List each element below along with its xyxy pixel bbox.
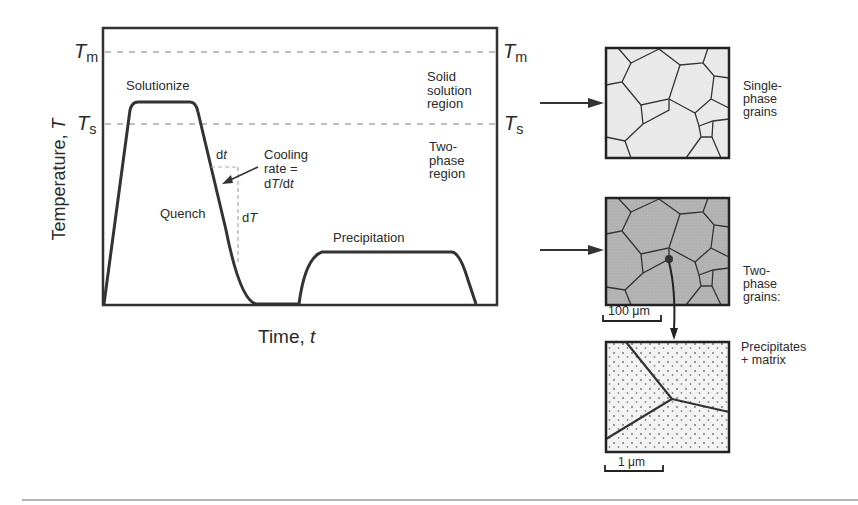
tm-label-right: Tm <box>503 41 527 62</box>
two-phase-region-label: Two- phase region <box>429 140 465 181</box>
precipitation-label: Precipitation <box>333 231 405 245</box>
tm-label-left: Tm <box>74 41 98 62</box>
x-axis-label: Time, t <box>258 327 315 347</box>
two-phase-micrograph <box>606 198 729 305</box>
scale-label-1um: 1 μm <box>618 456 645 469</box>
dT-label: dT <box>242 211 257 225</box>
arrowhead-icon <box>588 245 604 255</box>
ts-label-right: Ts <box>504 113 523 134</box>
cooling-rate-label: Coolingrate =dT/dt <box>264 148 308 191</box>
y-axis-label: Temperature, T <box>50 104 69 254</box>
arrowhead-down-icon <box>670 328 678 340</box>
dt-label: dt <box>216 148 227 162</box>
two-phase-grains-label: Two- phase grains: <box>743 265 781 304</box>
cooling-rate-arrow-shaft <box>228 167 258 181</box>
solid-solution-region-label: Solid solution region <box>427 70 472 111</box>
zoom-point-icon <box>665 255 673 263</box>
single-phase-micrograph <box>606 48 729 158</box>
precipitates-micrograph <box>606 342 729 452</box>
single-phase-grains-label: Single- phase grains <box>743 80 782 119</box>
arrowhead-icon <box>588 98 604 108</box>
cooling-rate-arrowhead-icon <box>222 175 233 184</box>
quench-label: Quench <box>160 207 206 221</box>
precipitates-matrix-label: Precipitates + matrix <box>741 341 806 367</box>
ts-label-left: Ts <box>77 113 96 134</box>
scale-label-100um: 100 μm <box>608 305 650 318</box>
temperature-profile-curve <box>104 102 476 304</box>
solutionize-label: Solutionize <box>126 79 190 93</box>
